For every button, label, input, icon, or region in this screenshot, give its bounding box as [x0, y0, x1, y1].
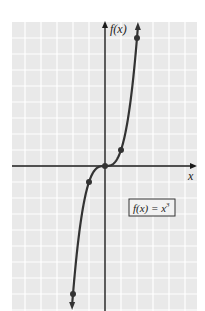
plot-area: f(x) x f(x) = x3	[0, 0, 205, 311]
function-label-exponent: 3	[165, 201, 170, 209]
data-point	[70, 291, 76, 297]
cubic-function-graph: f(x) x f(x) = x3	[0, 0, 205, 311]
data-point	[102, 163, 108, 169]
function-label-box: f(x) = x3	[129, 199, 175, 216]
function-label: f(x) = x	[133, 202, 166, 215]
x-axis-label: x	[187, 169, 194, 183]
data-point	[86, 179, 92, 185]
data-point	[118, 147, 124, 153]
svg-text:f(x) = x3: f(x) = x3	[133, 201, 170, 215]
y-axis-label: f(x)	[110, 22, 127, 36]
data-point	[134, 35, 140, 41]
